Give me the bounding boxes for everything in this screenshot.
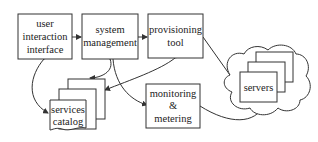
node-label: user xyxy=(36,18,54,29)
node-servers-cloud: servers xyxy=(224,45,310,115)
node-label: monitoring xyxy=(150,88,197,99)
node-label: provisioning xyxy=(149,24,203,35)
node-label: interaction xyxy=(23,31,69,42)
node-label: servers xyxy=(244,82,274,93)
node-label: management xyxy=(83,37,137,48)
node-label: system xyxy=(95,24,124,35)
edge-sysmgmt-catalog xyxy=(90,59,111,78)
node-label: & xyxy=(169,100,177,111)
edge-ui-catalog xyxy=(32,59,48,113)
edge-sysmgmt-to-monitoring xyxy=(113,59,147,105)
node-monitoring-metering: monitoring & metering xyxy=(146,84,200,128)
node-provisioning-tool: provisioning tool xyxy=(148,14,203,58)
architecture-diagram: user interaction interface system manage… xyxy=(0,0,318,142)
node-label: services xyxy=(51,104,85,115)
node-label: catalog xyxy=(53,116,84,127)
node-label: metering xyxy=(154,113,192,124)
node-system-management: system management xyxy=(82,14,138,59)
node-services-catalog: services catalog xyxy=(50,79,105,130)
node-user-interface: user interaction interface xyxy=(18,14,72,59)
node-label: tool xyxy=(167,37,183,48)
node-label: interface xyxy=(27,44,64,55)
